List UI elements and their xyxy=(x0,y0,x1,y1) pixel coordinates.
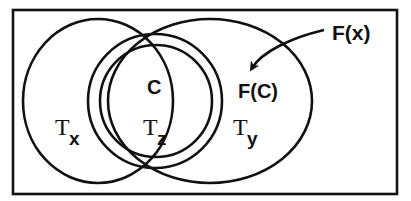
svg-text:x: x xyxy=(69,128,80,149)
svg-text:z: z xyxy=(157,128,167,149)
venn-diagram: F(x) C F(C) T x T z T y xyxy=(0,0,411,201)
svg-text:T: T xyxy=(233,114,248,140)
svg-text:T: T xyxy=(55,114,70,140)
svg-text:y: y xyxy=(247,128,258,149)
label-c: C xyxy=(147,76,161,98)
label-ty: T y xyxy=(233,114,258,149)
label-fc: F(C) xyxy=(238,80,278,102)
set-tx-ellipse xyxy=(23,19,173,183)
label-tx: T x xyxy=(55,114,80,149)
label-tz: T z xyxy=(143,114,167,149)
svg-text:T: T xyxy=(143,114,158,140)
set-tz-inner-circle xyxy=(100,45,212,157)
callout-label-fx: F(x) xyxy=(332,21,371,44)
